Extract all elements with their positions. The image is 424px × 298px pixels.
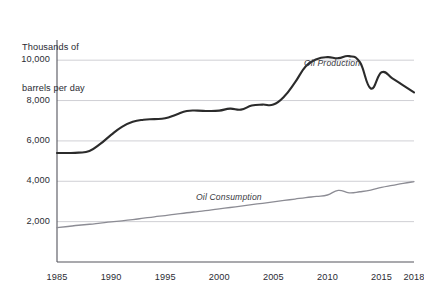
series-line-oil-production [57,56,414,153]
x-axis-tick-label: 2015 [371,272,392,282]
series-line-oil-consumption [57,182,414,228]
x-axis-tick-label: 2018 [404,272,424,282]
x-axis-tick-label: 1995 [155,272,176,282]
x-axis-tick-label: 1985 [47,272,68,282]
series-label-oil-production: Oil Production [304,58,360,68]
y-axis-tick-label: 2,000 [3,216,50,226]
y-axis-tick-labels: 2,0004,0006,0008,00010,000 [0,0,50,298]
series-label-oil-consumption: Oil Consumption [196,192,262,202]
y-axis-tick-label: 6,000 [3,135,50,145]
x-axis-tick-label: 2000 [209,272,230,282]
y-axis-tick-label: 8,000 [3,95,50,105]
y-axis-tick-label: 10,000 [3,54,50,64]
x-axis-tick-label: 2005 [263,272,284,282]
x-axis-tick-label: 2010 [317,272,338,282]
y-axis-tick-label: 4,000 [3,175,50,185]
x-axis-tick-label: 1990 [101,272,122,282]
